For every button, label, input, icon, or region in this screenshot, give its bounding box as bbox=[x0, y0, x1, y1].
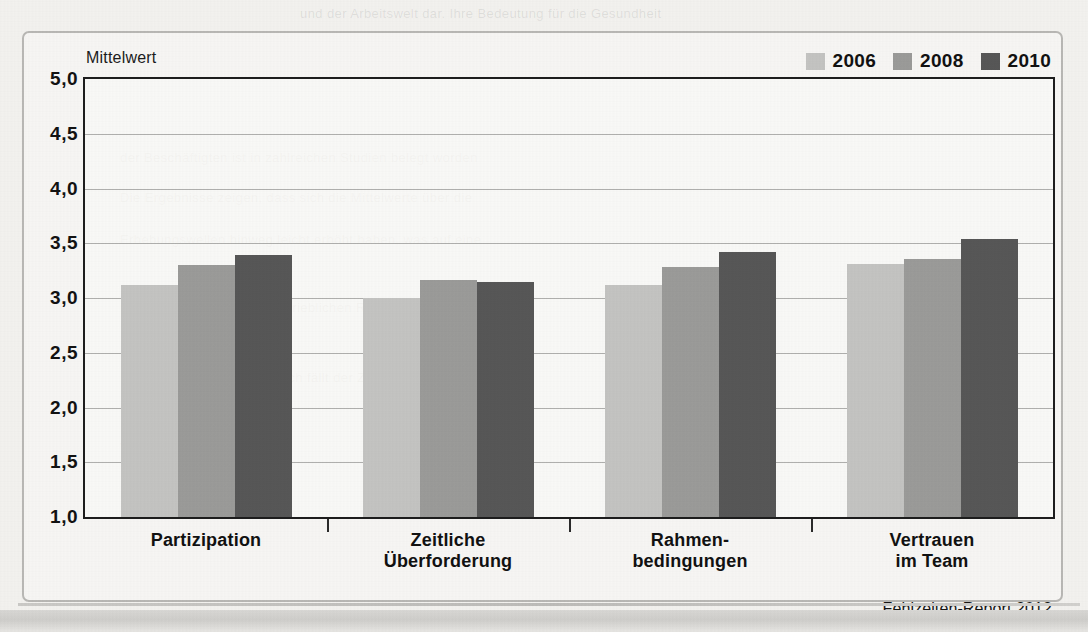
bar-2008-3[interactable] bbox=[662, 267, 719, 517]
footer-rule bbox=[18, 603, 1080, 606]
legend-label-2008: 2008 bbox=[920, 50, 963, 72]
background-text-line-1: und der Arbeitswelt dar. Ihre Bedeutung … bbox=[300, 6, 1088, 21]
category-label-line: Rahmen- bbox=[651, 530, 729, 550]
y-axis-title: Mittelwert bbox=[86, 49, 156, 67]
category-label-2: ZeitlicheÜberforderung bbox=[327, 530, 569, 572]
bar-group bbox=[605, 79, 776, 517]
category-label-line: im Team bbox=[895, 551, 968, 571]
footer-band bbox=[0, 610, 1088, 632]
bar-2010-2[interactable] bbox=[477, 282, 534, 517]
chart-legend: 2006 2008 2010 bbox=[806, 50, 1051, 72]
category-label-line: Partizipation bbox=[151, 530, 262, 550]
legend-swatch-2006-icon bbox=[806, 53, 825, 70]
legend-item-2010[interactable]: 2010 bbox=[981, 50, 1051, 72]
bars-layer bbox=[85, 79, 1053, 517]
bar-2008-1[interactable] bbox=[178, 265, 235, 517]
bar-2006-1[interactable] bbox=[121, 285, 178, 517]
legend-item-2008[interactable]: 2008 bbox=[893, 50, 963, 72]
y-axis: 5,04,54,03,53,02,52,01,51,0 bbox=[22, 77, 78, 519]
category-label-line: Überforderung bbox=[384, 551, 513, 571]
bar-2006-4[interactable] bbox=[847, 264, 904, 517]
legend-item-2006[interactable]: 2006 bbox=[806, 50, 876, 72]
y-axis-tick-label: 2,0 bbox=[26, 397, 78, 419]
bar-2010-4[interactable] bbox=[961, 239, 1018, 517]
category-label-1: Partizipation bbox=[85, 530, 327, 551]
bar-group bbox=[847, 79, 1018, 517]
bar-2006-3[interactable] bbox=[605, 285, 662, 517]
y-axis-tick-label: 3,5 bbox=[26, 232, 78, 254]
y-axis-tick-label: 3,0 bbox=[26, 287, 78, 309]
bar-2008-4[interactable] bbox=[904, 259, 961, 517]
bar-group bbox=[121, 79, 292, 517]
y-axis-tick-label: 2,5 bbox=[26, 342, 78, 364]
category-label-line: Zeitliche bbox=[411, 530, 486, 550]
legend-swatch-2008-icon bbox=[893, 53, 912, 70]
bar-2008-2[interactable] bbox=[420, 280, 477, 517]
bar-2010-3[interactable] bbox=[719, 252, 776, 517]
category-label-4: Vertrauenim Team bbox=[811, 530, 1053, 572]
y-axis-tick-label: 4,5 bbox=[26, 123, 78, 145]
y-axis-tick-label: 1,5 bbox=[26, 451, 78, 473]
y-axis-tick-label: 4,0 bbox=[26, 178, 78, 200]
bar-2010-1[interactable] bbox=[235, 255, 292, 517]
bar-2006-2[interactable] bbox=[363, 298, 420, 517]
category-label-3: Rahmen-bedingungen bbox=[569, 530, 811, 572]
y-axis-tick-label: 5,0 bbox=[26, 68, 78, 90]
category-label-line: Vertrauen bbox=[890, 530, 975, 550]
category-label-line: bedingungen bbox=[632, 551, 747, 571]
legend-label-2010: 2010 bbox=[1008, 50, 1051, 72]
legend-swatch-2010-icon bbox=[981, 53, 1000, 70]
bar-group bbox=[363, 79, 534, 517]
legend-label-2006: 2006 bbox=[833, 50, 876, 72]
y-axis-tick-label: 1,0 bbox=[26, 506, 78, 528]
